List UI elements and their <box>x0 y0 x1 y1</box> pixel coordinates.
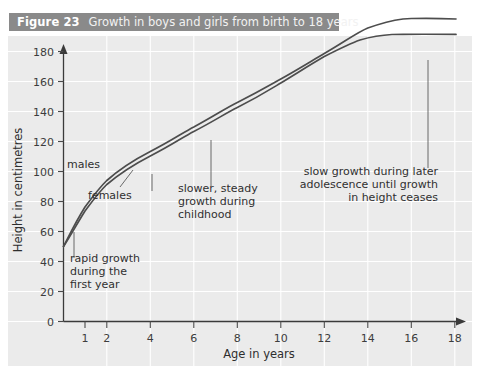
annotation-rapid-growth-line-1: rapid growth <box>70 252 140 265</box>
annotation-slow-growth-line-3: in height ceases <box>348 191 438 204</box>
annotation-rapid-growth-line-3: first year <box>70 278 120 291</box>
series-label-males: males <box>67 158 100 171</box>
series-line-males <box>64 18 457 246</box>
y-tick-140: 140 <box>33 106 54 119</box>
annotation-leader-lines <box>74 60 428 258</box>
annotation-slow-growth-line-1: slow growth during later <box>304 165 439 178</box>
growth-chart: 180 160 140 120 100 80 60 40 20 0 <box>0 0 480 386</box>
y-tick-100: 100 <box>33 166 54 179</box>
annotation-rapid-growth: rapid growth during the first year <box>70 252 140 291</box>
x-tick-1: 1 <box>82 332 89 345</box>
x-tick-14: 14 <box>361 332 375 345</box>
y-tick-40: 40 <box>40 256 54 269</box>
y-tick-20: 20 <box>40 286 54 299</box>
x-tick-12: 12 <box>317 332 331 345</box>
y-tick-60: 60 <box>40 226 54 239</box>
x-tick-16: 16 <box>404 332 418 345</box>
x-tick-10: 10 <box>274 332 288 345</box>
x-tick-18: 18 <box>448 332 462 345</box>
series-line-females <box>64 34 457 246</box>
annotation-slower-growth-line-1: slower, steady <box>178 182 258 195</box>
figure-container: Figure 23 Growth in boys and girls from … <box>0 0 480 386</box>
annotation-slower-steady-growth: slower, steady growth during childhood <box>178 182 258 221</box>
annotation-slower-growth-line-3: childhood <box>178 208 232 221</box>
annotation-slow-growth-adolescence: slow growth during later adolescence unt… <box>300 165 439 204</box>
y-tick-80: 80 <box>40 196 54 209</box>
x-tick-4: 4 <box>147 332 154 345</box>
y-tick-160: 160 <box>33 76 54 89</box>
series-label-females: females <box>88 189 132 202</box>
y-axis-title: Height in centimetres <box>11 128 25 253</box>
annotation-rapid-growth-line-2: during the <box>70 265 127 278</box>
x-tick-6: 6 <box>190 332 197 345</box>
annotation-slower-growth-line-2: growth during <box>178 195 255 208</box>
x-tick-8: 8 <box>234 332 241 345</box>
x-tick-labels: 1 2 4 6 8 10 12 14 16 18 <box>82 332 462 345</box>
y-axis <box>58 44 68 322</box>
x-axis-title: Age in years <box>223 347 295 361</box>
y-tick-labels: 180 160 140 120 100 80 60 40 20 0 <box>33 46 54 329</box>
y-tick-120: 120 <box>33 136 54 149</box>
x-axis <box>64 318 467 329</box>
annotation-slow-growth-line-2: adolescence until growth <box>300 178 438 191</box>
x-tick-2: 2 <box>103 332 110 345</box>
y-tick-180: 180 <box>33 46 54 59</box>
y-tick-0: 0 <box>47 316 54 329</box>
